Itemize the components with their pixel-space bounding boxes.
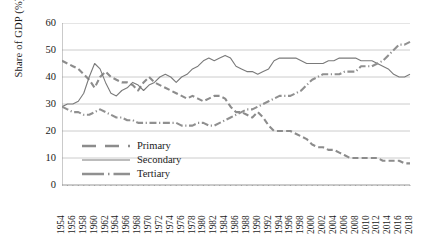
legend-label-primary: Primary	[137, 141, 171, 151]
x-axis-tick-1982: 1982	[209, 190, 218, 234]
x-axis-tick-1998: 1998	[296, 190, 305, 234]
x-axis-tick-1970: 1970	[144, 190, 153, 234]
x-axis-tick-2012: 2012	[372, 190, 381, 234]
y-axis-tick-labels: 0102030405060	[28, 0, 56, 234]
x-axis-tick-1964: 1964	[111, 190, 120, 234]
x-axis-tick-1994: 1994	[275, 190, 284, 234]
x-axis-tick-1968: 1968	[133, 190, 142, 234]
y-axis-tick-30: 30	[30, 99, 56, 109]
legend-key-primary-icon	[80, 141, 132, 151]
x-axis-tick-labels: 1954195619581960196219641966196819701972…	[62, 188, 410, 234]
chart-container: Share of GDP (%) 0102030405060 195419561…	[0, 0, 424, 234]
x-axis-tick-1984: 1984	[220, 190, 229, 234]
x-axis-tick-1996: 1996	[285, 190, 294, 234]
x-axis-tick-1962: 1962	[101, 190, 110, 234]
legend-key-tertiary-icon	[80, 169, 132, 179]
x-axis-tick-2010: 2010	[362, 190, 371, 234]
x-axis-tick-1986: 1986	[231, 190, 240, 234]
x-axis-tick-1980: 1980	[198, 190, 207, 234]
x-axis-tick-1972: 1972	[155, 190, 164, 234]
x-axis-tick-1958: 1958	[79, 190, 88, 234]
x-axis-tick-1966: 1966	[122, 190, 131, 234]
x-axis-tick-2002: 2002	[318, 190, 327, 234]
x-axis-tick-2004: 2004	[329, 190, 338, 234]
y-axis-tick-60: 60	[30, 18, 56, 28]
x-axis-tick-1978: 1978	[188, 190, 197, 234]
y-axis-tick-0: 0	[30, 180, 56, 190]
x-axis-tick-1990: 1990	[253, 190, 262, 234]
legend-item-primary[interactable]: Primary	[80, 139, 181, 153]
x-axis-tick-2000: 2000	[307, 190, 316, 234]
x-axis-tick-1960: 1960	[90, 190, 99, 234]
series-line-secondary	[62, 55, 410, 106]
legend-key-secondary-icon	[80, 155, 132, 165]
x-axis-tick-2014: 2014	[383, 190, 392, 234]
x-axis-tick-1988: 1988	[242, 190, 251, 234]
x-axis-tick-2008: 2008	[351, 190, 360, 234]
y-axis-tick-20: 20	[30, 126, 56, 136]
x-axis-tick-2018: 2018	[405, 190, 414, 234]
x-axis-tick-1956: 1956	[68, 190, 77, 234]
x-axis-tick-1992: 1992	[264, 190, 273, 234]
x-axis-tick-1976: 1976	[177, 190, 186, 234]
y-axis-tick-10: 10	[30, 153, 56, 163]
legend-item-tertiary[interactable]: Tertiary	[80, 167, 181, 181]
x-axis-tick-2006: 2006	[340, 190, 349, 234]
x-axis-tick-2016: 2016	[394, 190, 403, 234]
legend-label-tertiary: Tertiary	[137, 169, 170, 179]
legend-item-secondary[interactable]: Secondary	[80, 153, 181, 167]
x-axis-tick-1974: 1974	[166, 190, 175, 234]
y-axis-title: Share of GDP (%)	[13, 0, 24, 108]
chart-legend: PrimarySecondaryTertiary	[80, 139, 181, 181]
x-axis-tick-1954: 1954	[57, 190, 66, 234]
y-axis-tick-50: 50	[30, 45, 56, 55]
legend-label-secondary: Secondary	[137, 155, 181, 165]
y-axis-tick-40: 40	[30, 72, 56, 82]
